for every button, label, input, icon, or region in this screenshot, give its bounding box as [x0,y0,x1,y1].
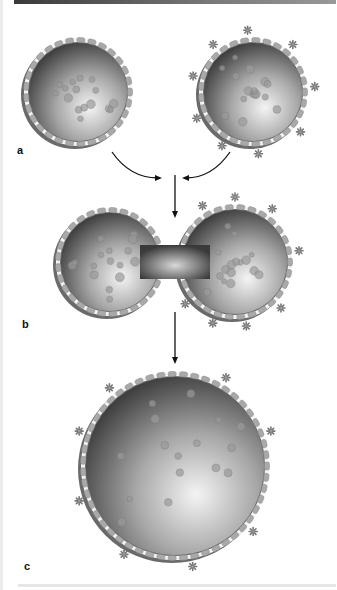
asterisk-marker-icon [189,72,197,80]
interior-particle [227,268,236,277]
membrane-protein [252,141,260,146]
asterisk-marker-icon [199,202,207,210]
interior-particle [221,112,228,119]
vesicle-c-fused [75,371,275,570]
interior-particle [53,91,58,96]
membrane-protein [168,555,176,560]
interior-particle [237,422,245,430]
interior-particle [93,87,99,93]
membrane-protein [97,310,106,316]
membrane-protein [179,372,187,378]
interior-particle [239,117,247,125]
interior-particle [117,453,124,460]
interior-particle [151,414,160,423]
interior-particle [73,86,80,93]
interior-particle [98,236,104,242]
membrane-protein [263,473,269,482]
membrane-protein [179,555,187,561]
interior-particle [204,288,211,295]
interior-particle [217,273,224,280]
interior-particle [212,464,220,472]
interior-particle [70,79,76,85]
membrane-protein [225,204,233,210]
interior-particle [262,94,268,100]
membrane-protein [109,207,117,212]
interior-particle [241,96,247,102]
asterisk-marker-icon [222,374,230,382]
vesicle-a-left [21,37,133,149]
interior-particle [226,279,235,288]
interior-particle [264,80,271,87]
membrane-protein [97,208,106,214]
interior-particle [78,116,84,122]
panel-label-b: b [22,318,29,330]
membrane-protein [77,141,85,146]
interior-particle [117,518,125,526]
interior-particle [161,441,169,449]
asterisk-marker-icon [295,247,303,255]
interior-particle [107,296,113,302]
membrane-protein [237,204,245,210]
vesicle-interior [86,377,264,555]
interior-particle [125,247,132,254]
interior-particle [255,271,263,279]
interior-particle [90,271,98,279]
asterisk-marker-icon [289,41,297,49]
membrane-protein [77,37,85,42]
interior-particle [176,469,183,476]
membrane-protein [168,371,176,376]
interior-particle [216,250,221,255]
membrane-protein [225,314,233,320]
membrane-protein [303,88,308,96]
asterisk-marker-icon [189,562,197,570]
interior-particle [216,417,222,423]
interior-particle [81,104,88,111]
interior-particle [98,252,104,258]
asterisk-marker-icon [209,319,217,327]
membrane-protein [240,38,249,44]
interior-particle [224,469,232,477]
fusion-neck [140,245,210,279]
asterisk-marker-icon [267,427,275,435]
interior-particle [227,260,236,269]
asterisk-marker-icon [231,193,239,201]
interior-particle [187,390,195,398]
asterisk-marker-icon [120,550,128,558]
asterisk-marker-icon [75,497,83,505]
interior-particle [222,279,227,284]
membrane-protein [55,263,61,271]
interior-particle [149,400,156,407]
asterisk-marker-icon [268,205,276,213]
interior-particle [107,258,114,265]
interior-particle [129,235,138,244]
interior-particle [251,88,257,94]
interior-particle [106,248,112,254]
asterisk-marker-icon [181,300,189,308]
interior-particle [131,257,140,266]
interior-particle [175,453,182,460]
interior-particle [89,76,95,82]
asterisk-marker-icon [209,41,217,49]
membrane-protein [252,37,260,42]
interior-particle [193,440,200,447]
membrane-protein [157,372,166,378]
membrane-protein [265,462,270,470]
interior-particle [115,273,124,282]
membrane-protein [288,258,293,266]
interior-particle [220,65,225,70]
membrane-protein [65,38,74,44]
asterisk-marker-icon [218,142,226,150]
membrane-protein [240,140,249,146]
panel-label-a: a [17,144,23,156]
asterisk-marker-icon [311,83,319,91]
interior-particle [246,65,255,74]
interior-particle [127,496,132,501]
membrane-protein [198,82,204,90]
membrane-protein [157,554,166,560]
interior-particle [63,85,69,91]
membrane-protein [55,252,61,260]
asterisk-marker-icon [254,150,262,158]
asterisk-marker-icon [105,384,113,392]
membrane-protein [198,93,204,101]
fusion-diagram [0,0,337,590]
